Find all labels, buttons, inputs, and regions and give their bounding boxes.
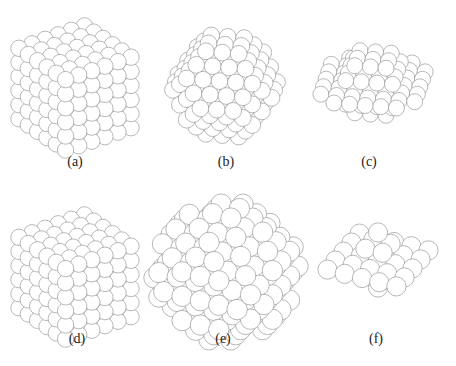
sphere-cluster-f <box>0 0 456 366</box>
caption-f: (f) <box>356 331 396 347</box>
